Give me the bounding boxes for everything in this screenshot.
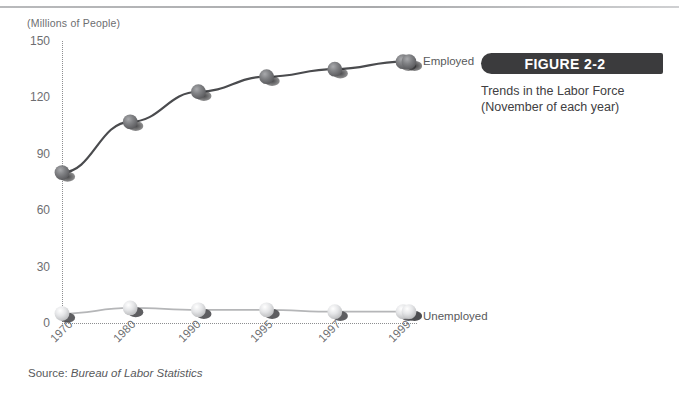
figure-container: (Millions of People) 150 120 90 60 30 0 … bbox=[0, 0, 679, 393]
marker-sphere bbox=[259, 69, 274, 84]
data-point-employed-1995 bbox=[259, 69, 280, 86]
data-point-unemployed-1980 bbox=[123, 301, 143, 318]
marker-sphere bbox=[259, 302, 274, 317]
data-point-unemployed-1970 bbox=[55, 306, 76, 323]
figure-caption-title: Trends in the Labor Force bbox=[481, 83, 671, 99]
source-prefix: Source: bbox=[28, 367, 68, 379]
source-body: Bureau of Labor Statistics bbox=[71, 367, 203, 379]
data-point-unemployed-1997 bbox=[327, 304, 348, 321]
marker-sphere bbox=[123, 301, 138, 316]
legend-marker-sphere bbox=[402, 54, 417, 69]
figure-number-label: FIGURE 2-2 bbox=[481, 56, 649, 72]
figure-caption-block: FIGURE 2-2 Trends in the Labor Force (No… bbox=[481, 53, 671, 115]
series-layer bbox=[0, 0, 470, 393]
data-point-employed-1980 bbox=[123, 114, 143, 131]
series-line-employed bbox=[62, 62, 403, 173]
series-line-unemployed bbox=[62, 308, 403, 314]
figure-caption-subtitle: (November of each year) bbox=[481, 99, 671, 115]
marker-sphere bbox=[327, 62, 342, 77]
series-label-employed: Employed bbox=[423, 55, 474, 67]
marker-sphere bbox=[327, 304, 342, 319]
marker-sphere bbox=[123, 114, 138, 129]
figure-number-badge: FIGURE 2-2 bbox=[481, 53, 663, 74]
source-note: Source: Bureau of Labor Statistics bbox=[28, 367, 203, 379]
marker-sphere bbox=[191, 84, 206, 99]
chart-plot-area: (Millions of People) 150 120 90 60 30 0 … bbox=[0, 0, 470, 393]
legend-marker-sphere bbox=[402, 304, 417, 319]
data-point-employed-1997 bbox=[327, 62, 348, 79]
data-point-unemployed-1990 bbox=[191, 302, 211, 319]
marker-sphere bbox=[55, 306, 70, 321]
data-point-unemployed-1995 bbox=[259, 302, 280, 319]
series-label-unemployed: Unemployed bbox=[423, 310, 488, 322]
data-point-employed-1990 bbox=[191, 84, 211, 101]
data-point-employed-1970 bbox=[55, 165, 76, 182]
marker-sphere bbox=[55, 165, 70, 180]
marker-sphere bbox=[191, 302, 206, 317]
